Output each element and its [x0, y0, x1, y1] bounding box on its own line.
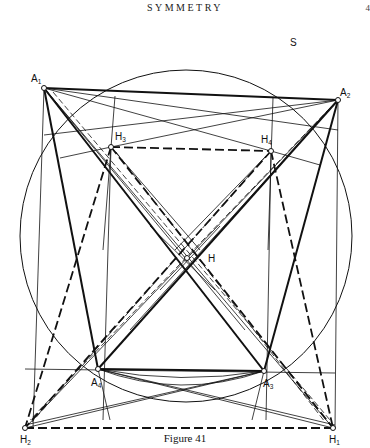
label-s: S: [290, 37, 297, 48]
thin-lines: [25, 88, 338, 428]
vertex-markers: [23, 86, 341, 431]
label-h: H: [208, 253, 215, 264]
label-a3: A3: [263, 378, 274, 390]
label-a2: A2: [340, 87, 351, 99]
figure-caption: Figure 41: [0, 432, 370, 444]
label-a1: A1: [31, 73, 42, 85]
label-h3: H3: [115, 131, 126, 143]
geometry-figure: S A1 A2 A3 A4 H1 H2 H3 H4 H: [0, 0, 370, 448]
label-h4: H4: [261, 134, 272, 146]
